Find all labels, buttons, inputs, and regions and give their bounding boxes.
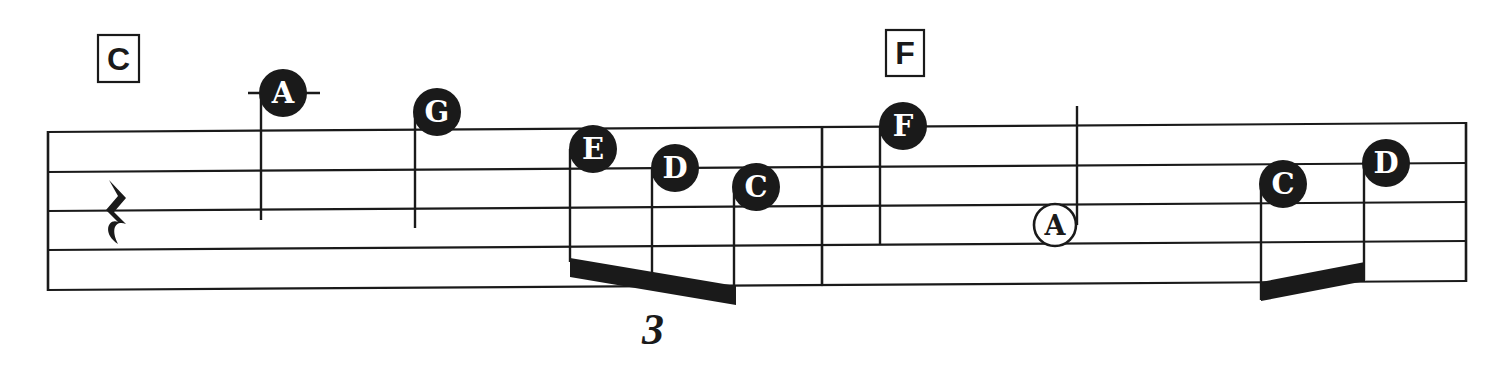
note-f: F <box>879 102 927 245</box>
beams <box>1261 262 1365 301</box>
chord-symbol-f: F <box>886 30 924 76</box>
note-letter: A <box>271 76 295 110</box>
note-letter: D <box>1373 146 1398 180</box>
note-letter: E <box>582 132 604 166</box>
beam <box>1261 262 1365 301</box>
staff-line <box>48 241 1466 250</box>
chord-symbol-c: C <box>98 35 139 82</box>
triplet-number: 3 <box>641 305 664 354</box>
note-g: G <box>413 88 461 228</box>
note-d: D <box>651 144 699 282</box>
note-e: E <box>569 125 617 262</box>
note-letter: C <box>744 170 767 204</box>
note-letter: A <box>1044 210 1067 241</box>
note-letter: D <box>662 151 687 185</box>
notes: AGEDC <box>248 69 780 300</box>
quarter-rest-icon <box>106 180 126 244</box>
chord-label: F <box>895 35 915 71</box>
note-letter: C <box>1271 167 1294 201</box>
measure-c: C AGEDC 3 <box>98 35 780 354</box>
note-letter: F <box>893 109 914 143</box>
note-c: C <box>732 163 780 300</box>
note-d: D <box>1362 139 1410 280</box>
music-staff: C AGEDC 3 F FACD <box>0 0 1512 381</box>
staff-line <box>48 281 1466 290</box>
note-a: A <box>1034 106 1077 246</box>
note-a: A <box>248 69 320 220</box>
note-letter: G <box>425 95 450 129</box>
chord-label: C <box>107 41 130 77</box>
